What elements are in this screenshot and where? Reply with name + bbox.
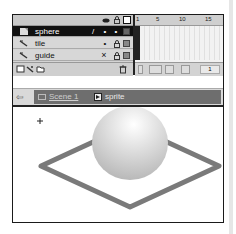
keyframe-column[interactable] — [135, 26, 140, 60]
add-motion-guide-icon[interactable] — [26, 65, 35, 73]
timeline: sphere / • • tile • guide × — [13, 15, 223, 75]
breadcrumb: Scene 1 sprite — [34, 90, 221, 104]
layer-list: sphere / • • tile • guide × — [13, 15, 135, 75]
lock-icon[interactable] — [113, 16, 121, 24]
layer-name: guide — [35, 50, 55, 61]
insert-folder-icon[interactable] — [36, 65, 45, 73]
layer-row-tile[interactable]: tile • — [13, 38, 133, 49]
layer-icon — [19, 28, 29, 35]
current-frame: 1 — [200, 65, 220, 74]
flash-editor-panel: sphere / • • tile • guide × — [12, 14, 224, 223]
stage[interactable] — [13, 107, 223, 222]
outline-color-swatch[interactable] — [123, 28, 130, 35]
lock-icon[interactable] — [113, 52, 121, 60]
layer-row-sphere[interactable]: sphere / • • — [13, 26, 133, 37]
frame-toolbar: 1 — [135, 62, 223, 76]
visible-dot[interactable]: • — [101, 27, 109, 36]
layer-header — [13, 15, 133, 26]
lock-icon[interactable] — [113, 40, 121, 48]
onion-markers-icon[interactable] — [181, 65, 190, 74]
movieclip-icon — [94, 93, 102, 101]
breadcrumb-symbol: sprite — [105, 92, 125, 102]
breadcrumb-scene[interactable]: Scene 1 — [49, 92, 78, 102]
registration-mark — [37, 118, 43, 124]
scene-icon — [38, 94, 46, 100]
stage-canvas[interactable] — [13, 107, 223, 222]
frame-grid[interactable] — [139, 26, 223, 60]
layer-name: tile — [35, 38, 45, 49]
layer-toolbar — [13, 62, 133, 76]
ruler-tick: 10 — [179, 16, 186, 22]
ruler-tick: 15 — [205, 16, 212, 22]
frame-ruler[interactable]: 1 5 10 15 — [135, 15, 223, 26]
onion-skin-icon[interactable] — [149, 65, 162, 74]
outline-icon[interactable] — [123, 16, 131, 24]
ruler-tick: 1 — [136, 16, 139, 22]
visible-dot[interactable]: • — [101, 39, 109, 48]
motion-guided-icon — [19, 40, 29, 47]
ruler-tick: 5 — [156, 16, 159, 22]
edit-bar: ⇦ Scene 1 sprite — [13, 88, 223, 107]
outline-color-swatch[interactable] — [123, 40, 130, 47]
pencil-icon: / — [89, 27, 97, 36]
edit-multiple-icon[interactable] — [165, 65, 174, 74]
center-frame-icon[interactable] — [138, 65, 143, 74]
sphere — [92, 107, 168, 180]
outline-color-swatch[interactable] — [123, 52, 130, 59]
frame-area[interactable]: 1 5 10 15 1 — [135, 15, 223, 75]
page-scrollbar[interactable] — [229, 0, 233, 234]
eye-icon[interactable] — [102, 16, 110, 24]
layer-name: sphere — [35, 26, 59, 37]
motion-guide-icon — [19, 52, 29, 59]
insert-layer-icon[interactable] — [16, 65, 25, 73]
layer-row-guide[interactable]: guide × — [13, 50, 133, 61]
hidden-x-icon[interactable]: × — [100, 51, 108, 60]
delete-layer-icon[interactable] — [119, 65, 127, 74]
lock-dot[interactable]: • — [112, 27, 120, 36]
back-arrow-icon[interactable]: ⇦ — [16, 92, 24, 102]
